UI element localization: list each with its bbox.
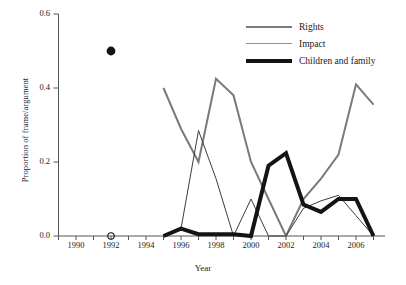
line-chart: Proportion of frame/argument Year 0.00.2… bbox=[0, 0, 406, 285]
legend-label-children-and-family: Children and family bbox=[299, 56, 376, 66]
legend-swatch-impact bbox=[246, 43, 292, 44]
series-line-children-and-family bbox=[164, 153, 374, 236]
legend-entry-impact: Impact bbox=[246, 35, 376, 52]
legend-swatch-rights bbox=[246, 26, 292, 28]
legend-entry-rights: Rights bbox=[246, 18, 376, 35]
legend-entry-children-and-family: Children and family bbox=[246, 52, 376, 69]
chart-legend: Rights Impact Children and family bbox=[246, 18, 376, 69]
legend-label-impact: Impact bbox=[299, 39, 325, 49]
legend-label-rights: Rights bbox=[299, 22, 324, 32]
series-line-rights bbox=[164, 79, 374, 236]
filled-point-1992 bbox=[107, 47, 114, 54]
series-line-impact bbox=[164, 131, 374, 236]
legend-swatch-children-and-family bbox=[246, 59, 292, 63]
